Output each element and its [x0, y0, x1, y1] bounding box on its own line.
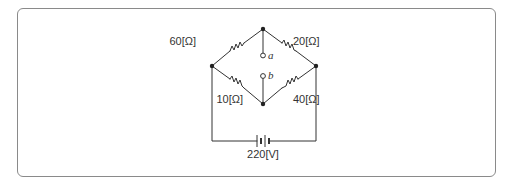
label-220-volt: 220[V] [247, 148, 279, 160]
node-top-dot [261, 27, 265, 31]
circuit-diagram: 60[Ω] 20[Ω] 10[Ω] 40[Ω] 220[V] a b [0, 0, 515, 186]
node-bottom-dot [261, 102, 265, 106]
label-terminal-b: b [268, 69, 274, 81]
label-40-ohm: 40[Ω] [293, 93, 320, 105]
battery-icon [257, 135, 269, 147]
label-60-ohm: 60[Ω] [169, 35, 196, 47]
node-right-dot [314, 64, 318, 68]
label-10-ohm: 10[Ω] [216, 93, 243, 105]
label-20-ohm: 20[Ω] [293, 35, 320, 47]
terminal-b-icon [261, 74, 266, 79]
label-terminal-a: a [268, 49, 274, 61]
node-left-dot [210, 64, 214, 68]
resistor-60-ohm [212, 29, 263, 66]
terminal-a-icon [261, 53, 266, 58]
